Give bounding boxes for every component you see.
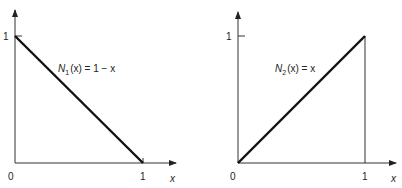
function-line-n1	[15, 36, 143, 163]
y-tick-label-1: 1	[226, 31, 232, 42]
x-tick-label-1: 1	[140, 171, 146, 182]
x-axis-label: x	[390, 173, 397, 184]
x-tick-label-1: 1	[362, 171, 368, 182]
function-expr: (x) = 1 − x	[70, 63, 115, 74]
shape-functions-diagram: 1 0 1 x N1(x) = 1 − x 1 0 1 x N2(x) = x	[0, 0, 402, 188]
y-tick-label-1: 1	[3, 31, 9, 42]
x-axis-label: x	[169, 173, 176, 184]
function-label-n2: N2(x) = x	[275, 63, 315, 76]
function-expr: (x) = x	[287, 63, 315, 74]
origin-label: 0	[8, 171, 14, 182]
origin-label: 0	[230, 171, 236, 182]
function-subscript: 1	[65, 69, 69, 76]
plot-n2: 1 0 1 x N2(x) = x	[226, 12, 397, 184]
function-line-n2	[238, 36, 365, 163]
plot-n1: 1 0 1 x N1(x) = 1 − x	[3, 10, 176, 184]
function-subscript: 2	[282, 69, 286, 76]
function-label-n1: N1(x) = 1 − x	[58, 63, 115, 76]
